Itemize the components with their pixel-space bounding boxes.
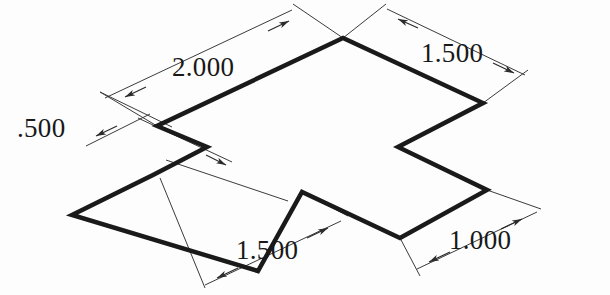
drawing-background <box>0 0 610 295</box>
dimension-label-1.500-top-right: 1.500 <box>421 38 483 68</box>
isometric-part-drawing: 2.000 1.500 .500 1.500 1.000 <box>0 0 610 295</box>
technical-drawing-canvas: 2.000 1.500 .500 1.500 1.000 <box>0 0 610 295</box>
dimension-label-2.000: 2.000 <box>172 52 234 82</box>
dimension-label-1.000: 1.000 <box>449 225 511 255</box>
dimension-label-.500: .500 <box>17 113 65 143</box>
dimension-label-1.500-bottom: 1.500 <box>236 235 298 265</box>
